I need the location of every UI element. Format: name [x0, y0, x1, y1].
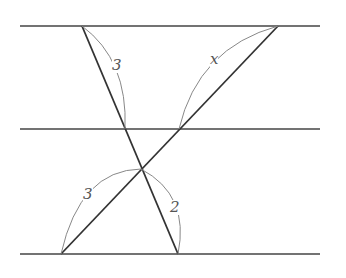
- label-top-right-segment: x: [210, 52, 218, 67]
- label-bottom-left-segment: 3: [83, 187, 93, 202]
- label-bottom-right-segment: 2: [170, 200, 180, 215]
- geometry-diagram: 3 x 3 2: [0, 0, 346, 278]
- transversal-2: [61, 26, 278, 254]
- diagram-canvas: [0, 0, 346, 278]
- label-top-left-segment: 3: [112, 58, 122, 73]
- transversal-1: [82, 26, 178, 254]
